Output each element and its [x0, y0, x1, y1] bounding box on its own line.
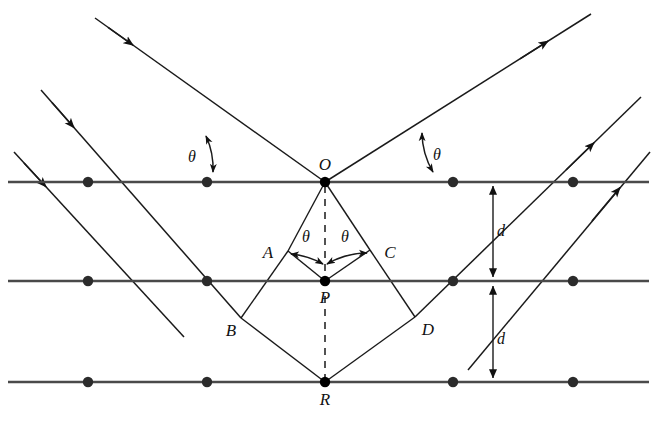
incident-rays-group — [14, 18, 325, 337]
label-theta-inner-right: θ — [341, 228, 349, 245]
label-point-P: P — [319, 288, 330, 307]
reflected-rays-group — [325, 14, 650, 370]
label-point-A: A — [262, 243, 274, 262]
segment-P-to-C — [325, 250, 370, 281]
segment-R-to-D — [325, 317, 415, 382]
incident-ray-1-arrowhead — [108, 27, 133, 45]
theta-arc-incident-left — [206, 136, 213, 172]
reflected-ray-3 — [468, 152, 650, 370]
label-point-R: R — [319, 390, 331, 409]
lattice-atom — [202, 276, 212, 286]
lattice-atom — [83, 177, 93, 187]
reflected-ray-1 — [325, 14, 591, 182]
reflected-ray-3-arrowhead — [592, 188, 620, 222]
lattice-atom — [202, 377, 212, 387]
theta-arc-inner-right — [327, 253, 367, 264]
label-point-O: O — [319, 155, 331, 174]
theta-arc-reflected-right — [422, 133, 433, 172]
diagram-canvas: O P R A B C D θ θ θ θ d d — [0, 0, 657, 423]
lattice-atom — [202, 177, 212, 187]
incident-ray-2-arrowhead — [52, 103, 74, 128]
label-theta-incident-left: θ — [188, 148, 196, 165]
segment-B-to-R — [241, 318, 325, 382]
vertex-dot-R — [320, 377, 330, 387]
lattice-atom — [83, 276, 93, 286]
vertex-dot-P — [320, 276, 330, 286]
label-point-D: D — [421, 320, 435, 339]
bragg-diffraction-figure: O P R A B C D θ θ θ θ d d — [0, 0, 657, 423]
theta-arc-inner-left — [291, 254, 323, 264]
lattice-atom — [568, 276, 578, 286]
scattering-vertices-group — [320, 177, 330, 387]
label-theta-inner-left: θ — [302, 228, 310, 245]
lattice-atom — [448, 177, 458, 187]
lattice-atom — [448, 377, 458, 387]
segment-A-to-P — [288, 251, 325, 281]
lattice-atom — [448, 276, 458, 286]
label-spacing-d-lower: d — [497, 330, 506, 347]
lattice-atom — [568, 177, 578, 187]
lattice-atom — [83, 377, 93, 387]
reflected-ray-1-arrowhead — [520, 41, 548, 59]
lattice-atom — [568, 377, 578, 387]
label-spacing-d-upper: d — [497, 222, 506, 239]
vertex-dot-O — [320, 177, 330, 187]
label-theta-reflected-right: θ — [433, 146, 441, 163]
label-point-B: B — [226, 321, 237, 340]
reflected-ray-2-arrowhead — [566, 143, 594, 170]
labels-group: O P R A B C D θ θ θ θ d d — [188, 146, 506, 409]
label-point-C: C — [384, 243, 396, 262]
